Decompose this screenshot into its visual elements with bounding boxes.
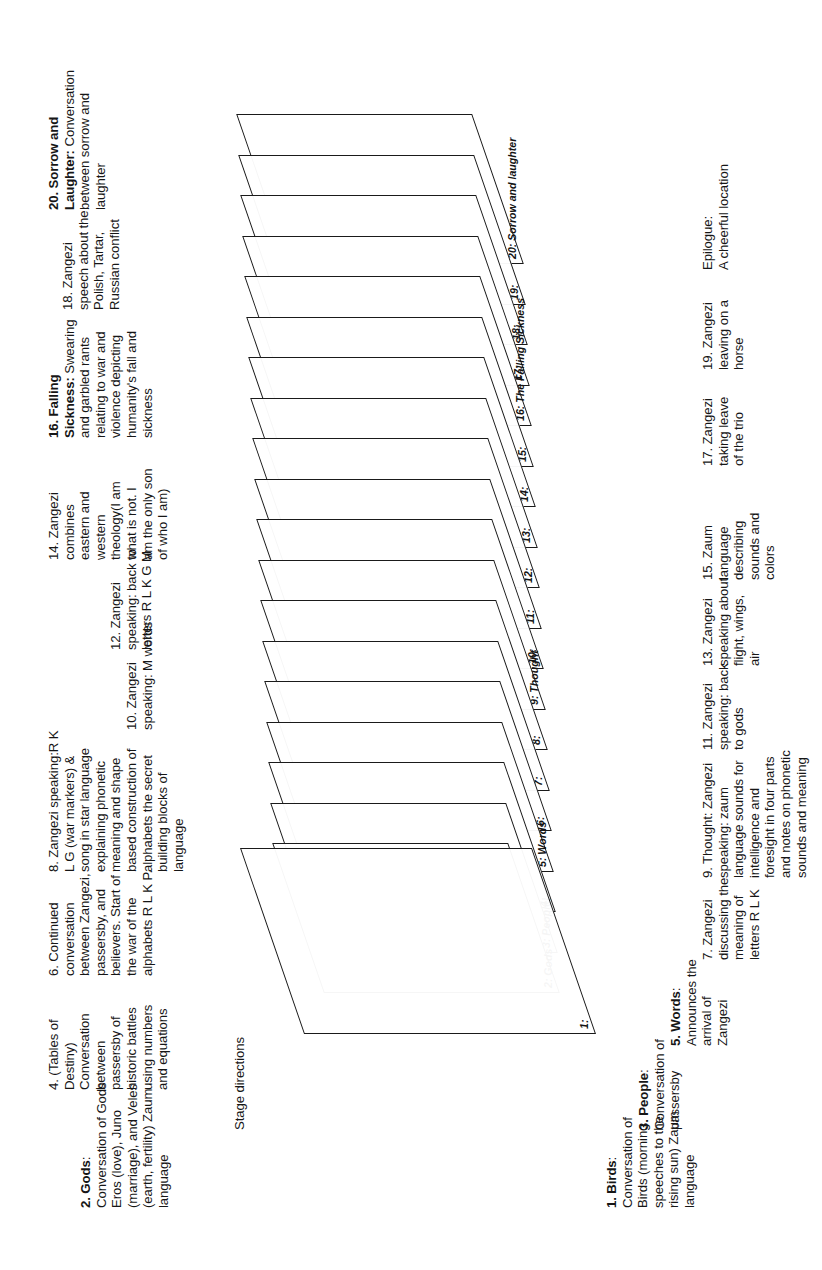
annotation-plane-3: 3. People: Conversation of passersby [636, 1039, 683, 1130]
plane-label-1: 1: [578, 1020, 590, 1029]
plane-label-16: 16: The Falling Sickness [514, 298, 526, 421]
annotation-plane-4: 4. (Tables of Destiny) Conversation betw… [46, 1005, 171, 1090]
zangezi-plane-diagram: 20: Sorrow and laughter19:18:17:16: The … [0, 0, 822, 1270]
annotation-plane-2: 2. Gods: Conversation of Gods Eros (love… [78, 1082, 172, 1208]
annotation-plane-8: 8. Zangezi speaking:R K L G (war markers… [46, 731, 186, 872]
annotation-plane-13: 13. Zangezi speaking about flight, wings… [700, 578, 762, 666]
annotation-plane-5: 5. Words: Announces the arrival of Zange… [668, 959, 730, 1046]
annotation-stage-directions: Stage directions [232, 1037, 248, 1130]
annotation-plane-6: 6. Continued conversation between Zangez… [46, 870, 155, 976]
annotation-plane-12: 12. Zangezi speaking: back to letters R … [108, 549, 155, 650]
annotation-plane-17: 17. Zangezi taking leave of the trio [700, 397, 747, 466]
annotation-plane-9: 9. Thought: Zangezi speaking: zaum langu… [700, 750, 809, 878]
plane-label-9: 9: Thought [528, 650, 540, 705]
annotation-plane-15: 15. Zaum language describing sounds and … [700, 513, 778, 580]
annotation-plane-19: 19. Zangezi leaving on a horse [700, 300, 747, 370]
annotation-plane-20: 20. Sorrow and Laughter: Conversation be… [46, 70, 108, 210]
annotation-plane-18: 18. Zangezi speech about the Polish, Tar… [60, 210, 122, 310]
annotation-plane-14: 14. Zangezi combines eastern and western… [46, 468, 171, 560]
annotation-epilogue: Epilogue: A cheerful location [700, 164, 731, 270]
annotation-plane-11: 11. Zangezi speaking: back to gods [700, 663, 747, 750]
annotation-plane-16: 16. Falling Sickness: Swearing and garbl… [46, 320, 155, 438]
annotation-plane-7: 7. Zangezi discussing the meaning of let… [700, 878, 762, 960]
plane-label-20: 20: Sorrow and laughter [506, 138, 518, 259]
